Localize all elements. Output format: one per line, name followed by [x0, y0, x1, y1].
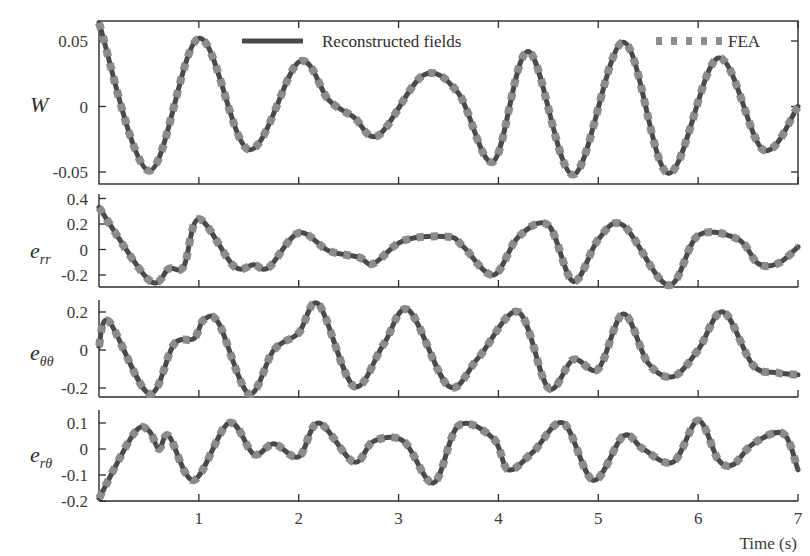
x-tick-label: 6	[694, 509, 703, 528]
series-reconstructed-line	[99, 303, 798, 394]
panel-e_rth: 0.10-0.1-0.2erθ	[30, 410, 798, 511]
y-tick-label: 0	[80, 341, 89, 360]
x-tick-label: 2	[294, 509, 303, 528]
legend-label-fea: FEA	[728, 32, 761, 51]
y-tick-label: 0	[80, 241, 89, 260]
panel-e_rr: 0.40.20-0.2err	[30, 190, 798, 288]
y-tick-label: -0.2	[61, 266, 88, 285]
x-tick-label: 3	[394, 509, 403, 528]
x-tick-label: 4	[494, 509, 503, 528]
y-axis-title: W	[30, 92, 50, 117]
panel-e_thth: 0.20-0.2eθθ	[30, 300, 798, 398]
x-axis: 1234567	[195, 509, 803, 528]
y-tick-label: 0.2	[67, 303, 88, 322]
y-tick-label: 0	[80, 440, 89, 459]
legend: Reconstructed fields FEA	[242, 32, 761, 51]
y-tick-label: -0.05	[53, 163, 88, 182]
y-tick-label: 0.4	[67, 190, 89, 209]
series-fea-line	[99, 303, 798, 394]
y-tick-label: 0.2	[67, 215, 88, 234]
y-axis-title: eθθ	[30, 340, 54, 369]
stacked-line-chart: 0.050-0.05W0.40.20-0.2err0.20-0.2eθθ0.10…	[0, 0, 810, 556]
y-axis-title: err	[30, 238, 51, 267]
series-fea-line	[99, 420, 798, 498]
y-tick-label: -0.1	[61, 466, 88, 485]
x-axis-title: Time (s)	[740, 534, 797, 553]
y-tick-label: -0.2	[61, 492, 88, 511]
legend-label-reconstructed: Reconstructed fields	[322, 32, 461, 51]
x-tick-label: 1	[195, 509, 204, 528]
y-tick-label: 0	[80, 98, 89, 117]
y-axis-title: erθ	[30, 442, 52, 471]
y-tick-label: 0.05	[58, 32, 88, 51]
x-tick-label: 7	[794, 509, 803, 528]
x-tick-label: 5	[594, 509, 603, 528]
y-tick-label: 0.1	[67, 414, 88, 433]
y-tick-label: -0.2	[61, 379, 88, 398]
